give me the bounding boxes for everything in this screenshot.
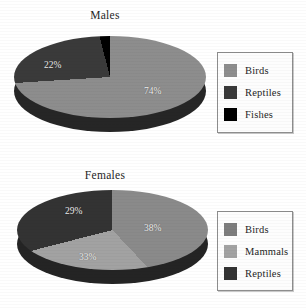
legend-label-birds: Birds <box>245 224 269 235</box>
pie-label-females-mammals: 33% <box>79 252 96 262</box>
legend-swatch-reptiles-icon <box>224 267 237 280</box>
legend-males: Birds Reptiles Fishes <box>217 52 293 133</box>
pie-top-face-males <box>14 36 206 118</box>
legend-label-fishes: Fishes <box>245 109 273 120</box>
legend-swatch-mammals-icon <box>224 245 237 258</box>
chart-block-males: Males 74% 22% Birds Reptiles Fishes <box>0 0 306 160</box>
legend-swatch-birds-icon <box>224 223 237 236</box>
legend-label-mammals: Mammals <box>245 246 288 257</box>
legend-females: Birds Mammals Reptiles <box>217 211 293 291</box>
legend-label-birds: Birds <box>245 65 269 76</box>
pie-label-males-birds: 74% <box>144 86 161 96</box>
pie-top-face-females <box>17 190 208 270</box>
pie-label-females-birds: 38% <box>144 223 161 233</box>
pie-chart-males: 74% 22% <box>14 36 206 134</box>
legend-swatch-birds-icon <box>224 64 237 77</box>
legend-item-reptiles[interactable]: Reptiles <box>224 83 286 101</box>
chart-title-males: Males <box>0 9 210 21</box>
legend-label-reptiles: Reptiles <box>245 268 281 279</box>
pie-label-males-reptiles: 22% <box>44 60 61 70</box>
chart-block-females: Females 38% 33% 29% Birds Mammals Reptil… <box>0 160 306 308</box>
legend-swatch-reptiles-icon <box>224 86 237 99</box>
pie-chart-females: 38% 33% 29% <box>17 190 208 285</box>
legend-item-birds[interactable]: Birds <box>224 61 286 79</box>
legend-item-mammals[interactable]: Mammals <box>224 242 286 260</box>
legend-label-reptiles: Reptiles <box>245 87 281 98</box>
legend-item-birds[interactable]: Birds <box>224 220 286 238</box>
chart-title-females: Females <box>0 169 210 181</box>
legend-swatch-fishes-icon <box>224 108 237 121</box>
legend-item-reptiles[interactable]: Reptiles <box>224 264 286 282</box>
legend-item-fishes[interactable]: Fishes <box>224 106 286 124</box>
pie-label-females-reptiles: 29% <box>65 206 82 216</box>
